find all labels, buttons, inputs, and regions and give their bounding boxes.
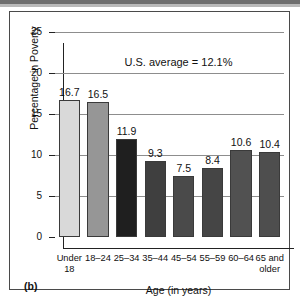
bar-value-label: 16.7 <box>53 87 85 98</box>
bar <box>59 100 80 237</box>
panel-letter: (b) <box>24 280 37 292</box>
y-axis-tick-label: 0 <box>22 232 42 242</box>
bar <box>230 150 251 237</box>
bar-value-label: 8.4 <box>196 155 228 166</box>
bar <box>259 152 280 237</box>
bar-value-label: 16.5 <box>82 89 114 100</box>
gridline <box>55 73 284 74</box>
x-axis-title: Age (in years) <box>64 284 293 296</box>
bar-value-label: 9.3 <box>139 148 171 159</box>
bar <box>116 139 137 237</box>
y-axis-tick-label: 10 <box>22 150 42 160</box>
figure-frame: Percentage in Poverty 0510152025 U.S. av… <box>9 11 290 290</box>
y-axis-tick-label: 25 <box>22 27 42 37</box>
y-axis-tick-label: 15 <box>22 109 42 119</box>
scan-edge-band-light <box>0 4 300 7</box>
x-axis-tick-label-line: 65 and <box>250 253 290 264</box>
x-axis-tick-label: 65 andolder <box>250 253 290 275</box>
x-axis-tick-label-line: older <box>250 264 290 275</box>
y-axis-tick-label: 5 <box>22 191 42 201</box>
bar-value-label: 11.9 <box>111 126 143 137</box>
y-axis-tick-label: 20 <box>22 68 42 78</box>
bar <box>145 161 166 237</box>
us-average-annotation: U.S. average = 12.1% <box>64 56 293 68</box>
bar <box>173 176 194 238</box>
y-axis-tick <box>49 237 55 238</box>
bar-value-label: 7.5 <box>168 163 200 174</box>
x-axis-tick-label-line: 18 <box>49 264 89 275</box>
gridline <box>55 32 284 33</box>
x-axis-line <box>63 248 294 249</box>
bar <box>202 168 223 237</box>
bar-value-label: 10.6 <box>225 137 257 148</box>
bar <box>87 102 108 237</box>
bar-value-label: 10.4 <box>254 139 286 150</box>
